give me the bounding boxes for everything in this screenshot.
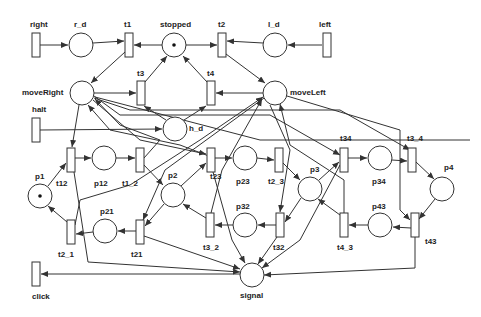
label-t12: t12 — [56, 179, 68, 188]
label-t34: t34 — [340, 134, 352, 143]
arc-p34-t3_4 — [392, 160, 407, 161]
arc-hd-t4 — [184, 106, 206, 120]
places — [28, 33, 454, 287]
arc-p2-t23 — [181, 163, 206, 186]
transition-t4_3[interactable] — [340, 213, 348, 237]
transition-right[interactable] — [32, 33, 40, 57]
label-r_d: r_d — [74, 20, 87, 29]
label-t3_2: t3_2 — [203, 243, 220, 252]
label-p3: p3 — [310, 165, 320, 174]
transition-t2_1[interactable] — [67, 220, 75, 244]
place-r_d[interactable] — [69, 33, 93, 57]
label-t2_3: t2_3 — [268, 177, 285, 186]
transition-t32[interactable] — [276, 213, 284, 237]
label-t32: t32 — [273, 243, 285, 252]
label-t2_1: t2_1 — [58, 250, 75, 259]
place-signal[interactable] — [240, 263, 264, 287]
transition-t3_2[interactable] — [206, 213, 214, 237]
transition-t3[interactable] — [137, 81, 145, 105]
arc-t21-signal — [144, 236, 240, 269]
label-signal: signal — [240, 291, 263, 300]
transition-t21[interactable] — [136, 220, 144, 244]
arc-t1_2-p2 — [144, 165, 163, 185]
petri-net-diagram: right r_d t1 stopped t2 l_d left moveRig… — [0, 0, 481, 317]
arc-p3-t34 — [319, 162, 339, 180]
transition-t1_2[interactable] — [136, 148, 144, 172]
arc-t1-moveright — [91, 52, 125, 83]
arc-halt-hd — [40, 129, 162, 130]
arc-p3-t32 — [285, 198, 301, 222]
transition-t1[interactable] — [125, 33, 133, 57]
arc-t43-p43 — [393, 227, 411, 228]
label-stopped: stopped — [160, 20, 191, 29]
place-p34[interactable] — [368, 146, 392, 170]
label-t43: t43 — [425, 237, 437, 246]
place-p12[interactable] — [92, 146, 116, 170]
place-p4[interactable] — [430, 177, 454, 201]
label-p23: p23 — [236, 177, 250, 186]
label-t1_2: t1_2 — [122, 179, 139, 188]
transition-t12[interactable] — [67, 148, 75, 172]
label-t4: t4 — [207, 69, 215, 78]
arc-p4-t43 — [419, 199, 435, 219]
place-h_d[interactable] — [163, 117, 187, 141]
label-h_d: h_d — [189, 124, 203, 133]
transition-t34[interactable] — [340, 148, 348, 172]
label-p12: p12 — [94, 179, 108, 188]
place-moveRight[interactable] — [70, 81, 94, 105]
label-right: right — [30, 20, 48, 29]
arc-p23-t2_3 — [257, 158, 274, 160]
arc-rd-t1 — [93, 41, 124, 43]
label-p32: p32 — [236, 202, 250, 211]
arc-moveright-t34 — [94, 96, 340, 155]
label-l_d: l_d — [268, 20, 280, 29]
arc-t3_2-p2 — [183, 204, 206, 218]
arc-t2-moveleft — [226, 54, 265, 83]
label-t3_4: t3_4 — [407, 134, 424, 143]
place-l_d[interactable] — [263, 33, 287, 57]
arc-t4_3-p3 — [318, 199, 340, 215]
label-halt: halt — [32, 105, 47, 114]
label-p34: p34 — [372, 177, 386, 186]
label-t1: t1 — [124, 20, 132, 29]
token-stopped — [172, 43, 176, 47]
place-p43[interactable] — [368, 213, 392, 237]
label-p1: p1 — [35, 172, 45, 181]
transition-t43[interactable] — [411, 213, 419, 237]
transition-t2[interactable] — [218, 33, 226, 57]
label-p43: p43 — [372, 202, 386, 211]
place-p23[interactable] — [233, 146, 257, 170]
label-t2: t2 — [218, 20, 226, 29]
label-t4_3: t4_3 — [337, 243, 354, 252]
arc-ld-t2 — [227, 41, 263, 43]
label-p2: p2 — [168, 171, 178, 180]
transition-t3_4[interactable] — [408, 148, 416, 172]
place-p3[interactable] — [298, 177, 322, 201]
transitions — [32, 33, 419, 286]
arc-moveright-t12 — [72, 105, 79, 147]
label-p21: p21 — [100, 207, 114, 216]
place-moveLeft[interactable] — [263, 81, 287, 105]
transition-t2_3[interactable] — [275, 148, 283, 172]
arc-t2_1-p1 — [48, 206, 67, 222]
token-p1 — [38, 194, 42, 198]
label-moveRight: moveRight — [22, 88, 64, 97]
label-p4: p4 — [444, 163, 454, 172]
transition-t23[interactable] — [207, 148, 215, 172]
place-p32[interactable] — [233, 213, 257, 237]
label-t23: t23 — [210, 172, 222, 181]
label-t21: t21 — [131, 250, 143, 259]
label-t3: t3 — [137, 69, 145, 78]
transition-t4[interactable] — [207, 81, 215, 105]
arc-p2-t21 — [145, 204, 164, 226]
label-left: left — [319, 20, 331, 29]
arc-t4-stopped — [183, 56, 207, 82]
transition-left[interactable] — [323, 33, 331, 57]
transition-halt[interactable] — [32, 118, 40, 142]
arc-t3-stopped — [145, 56, 167, 82]
arc-t3_4-p4 — [416, 162, 434, 179]
label-click: click — [32, 292, 50, 301]
place-p21[interactable] — [93, 219, 117, 243]
place-p2[interactable] — [161, 183, 185, 207]
transition-click[interactable] — [32, 262, 40, 286]
